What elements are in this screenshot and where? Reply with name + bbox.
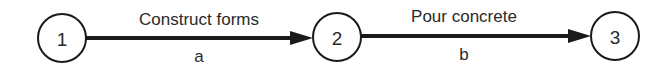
arrowhead-icon (568, 29, 591, 43)
node-label-3: 3 (610, 27, 621, 48)
node-2: 2 (313, 13, 361, 61)
activity-label-b: Pour concrete (411, 7, 517, 26)
node-3: 3 (591, 12, 639, 60)
node-label-1: 1 (57, 29, 68, 50)
edge-a: Construct forms a (86, 10, 313, 66)
arrowhead-icon (290, 31, 313, 45)
activity-id-a: a (194, 47, 204, 66)
network-diagram: Construct forms a Pour concrete b 1 2 3 (0, 0, 671, 77)
activity-label-a: Construct forms (139, 10, 259, 29)
edge-b: Pour concrete b (361, 7, 591, 64)
node-label-2: 2 (332, 28, 343, 49)
activity-id-b: b (459, 45, 468, 64)
node-1: 1 (38, 14, 86, 62)
